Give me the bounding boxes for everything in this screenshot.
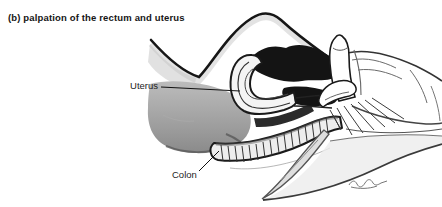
colon-label: Colon [172, 169, 197, 180]
colon-leader-line [199, 151, 219, 171]
wrist-crease [431, 86, 440, 121]
thumb [319, 80, 356, 107]
hand-top-edge [347, 51, 442, 81]
artist-signature [349, 180, 387, 189]
anatomical-illustration [0, 0, 442, 207]
figure-panel: (b) palpation of the rectum and uterus U… [0, 0, 442, 207]
figure-caption: (b) palpation of the rectum and uterus [8, 12, 185, 23]
perineum-hatching [330, 98, 404, 135]
uterus-label: Uterus [104, 80, 158, 91]
